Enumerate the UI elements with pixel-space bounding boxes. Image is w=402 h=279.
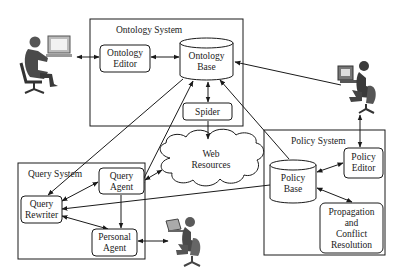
- web-resources-cloud: Web Resources: [160, 129, 263, 186]
- query-rewriter-line1: Query: [30, 199, 54, 209]
- propagation-conflict-resolution: Propagation and Conflict Resolution: [320, 203, 383, 253]
- propagation-line2: and: [345, 218, 359, 228]
- policy-editor-line2: Editor: [352, 163, 377, 173]
- propagation-line3: Conflict: [336, 229, 367, 239]
- ontology-base-line2: Base: [197, 62, 215, 72]
- query-rewriter-line2: Rewriter: [25, 210, 59, 220]
- personal-agent: Personal Agent: [92, 229, 137, 256]
- policy-base-line1: Policy: [281, 173, 306, 183]
- arrow-policy-base-propagation: [317, 188, 352, 202]
- personal-agent-line2: Agent: [103, 243, 127, 253]
- policy-base: Policy Base: [270, 160, 316, 203]
- arrow-policy-base-editor: [317, 163, 343, 172]
- policy-system-title: Policy System: [291, 136, 346, 146]
- personal-agent-line1: Personal: [98, 232, 131, 242]
- arrow-rewriter-query-agent: [62, 182, 98, 201]
- arrow-policy-base-rewriter: [62, 185, 270, 209]
- query-rewriter: Query Rewriter: [21, 196, 62, 223]
- ontology-editor: Ontology Editor: [100, 45, 150, 72]
- ontology-base-line1: Ontology: [189, 51, 225, 61]
- arrow-policy-user-ontology-base: [235, 62, 341, 85]
- query-agent-line1: Query: [110, 171, 134, 181]
- ontology-editor-line2: Editor: [113, 59, 138, 69]
- policy-editor: Policy Editor: [344, 148, 383, 178]
- arrow-rewriter-personal-agent: [62, 216, 108, 229]
- ontology-editor-line1: Ontology: [107, 48, 143, 58]
- ontology-base: Ontology Base: [180, 38, 233, 80]
- query-agent: Query Agent: [99, 168, 144, 194]
- policy-editor-line1: Policy: [351, 152, 376, 162]
- web-resources-line1: Web: [202, 149, 219, 159]
- system-architecture-diagram: Ontology System Query System Policy Syst…: [0, 0, 402, 279]
- policy-base-line2: Base: [284, 184, 302, 194]
- query-system-title: Query System: [28, 169, 83, 179]
- ontology-user-icon: [21, 36, 72, 93]
- policy-user-icon: [338, 61, 376, 113]
- spider-label: Spider: [195, 107, 221, 117]
- query-agent-line2: Agent: [110, 182, 134, 192]
- spider: Spider: [183, 103, 232, 120]
- ontology-system-title: Ontology System: [116, 25, 183, 35]
- propagation-line1: Propagation: [329, 207, 375, 217]
- web-resources-line2: Resources: [191, 160, 230, 170]
- query-user-icon: [166, 217, 200, 266]
- propagation-line4: Resolution: [331, 240, 372, 250]
